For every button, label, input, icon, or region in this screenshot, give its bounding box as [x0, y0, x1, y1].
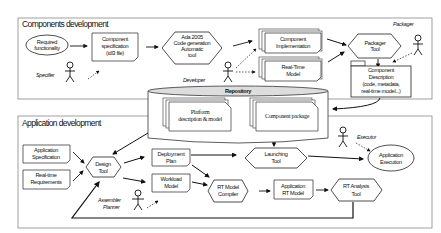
svg-text:Real-Time: Real-Time: [282, 64, 305, 70]
svg-text:Launching: Launching: [264, 151, 287, 157]
svg-text:tool: tool: [188, 52, 196, 58]
executor-label: Executor: [357, 134, 376, 140]
svg-text:(code, metadata,: (code, metadata,: [362, 81, 400, 87]
svg-text:Component: Component: [368, 67, 395, 73]
svg-text:Compiler: Compiler: [218, 191, 238, 197]
deployment-plan: Deployment Plan: [152, 149, 190, 166]
svg-text:Platform: Platform: [191, 109, 210, 115]
svg-text:Execution: Execution: [380, 159, 402, 165]
svg-text:Component package: Component package: [265, 113, 310, 119]
specifier-label: Specifier: [36, 72, 55, 78]
real-time-model: Real-Time Model: [259, 57, 322, 81]
svg-text:functionality: functionality: [34, 45, 60, 51]
svg-text:Application: Application: [379, 152, 403, 158]
workload-model: Workload Model: [152, 174, 190, 192]
assembler-label: Assembler: [97, 197, 121, 203]
application-title: Application development: [22, 118, 102, 128]
svg-text:Real-time: Real-time: [35, 172, 56, 178]
repository: Repository Platform description & model …: [148, 86, 328, 143]
svg-text:Description: Description: [369, 74, 394, 80]
component-package-doc: Component package: [250, 98, 318, 131]
svg-text:(idl3 file): (idl3 file): [106, 50, 124, 56]
svg-text:Workload: Workload: [160, 176, 181, 182]
svg-text:Application: Application: [281, 183, 305, 189]
application-rt-model: Application RT Model: [274, 180, 313, 199]
development-process-diagram: Components development Application devel…: [0, 0, 441, 233]
application-execution: Application Execution: [368, 145, 414, 171]
svg-text:Specification: Specification: [32, 154, 60, 160]
ada-code-generation-tool: Ada 2005 Code generation Automatic tool: [162, 32, 222, 64]
svg-text:Tool: Tool: [370, 46, 379, 52]
svg-text:specification: specification: [102, 43, 129, 49]
rt-analysis-tool: RT Analysis Tool: [331, 179, 382, 201]
svg-text:Deployment: Deployment: [158, 151, 186, 157]
rt-model-compiler: RT Model Compiler: [208, 180, 248, 202]
real-time-requirements: Real-time Requirements: [23, 170, 70, 189]
packager-tool: Packager Tool: [348, 34, 401, 58]
svg-text:Component: Component: [280, 36, 307, 42]
launching-tool: Launching Tool: [245, 148, 307, 168]
svg-text:Plan: Plan: [166, 158, 176, 164]
svg-text:RT Model: RT Model: [282, 190, 304, 196]
required-functionality: Required functionality: [26, 35, 68, 55]
svg-text:Tool: Tool: [271, 158, 280, 164]
planner-label: Planner: [103, 204, 120, 210]
design-tool: Design Tool: [86, 157, 121, 177]
component-implementation: Component Implementation: [259, 29, 322, 53]
svg-text:Tool: Tool: [98, 168, 107, 174]
svg-text:description & model: description & model: [178, 116, 222, 122]
svg-text:Model: Model: [164, 183, 178, 189]
component-specification: Component specification (idl3 file): [92, 33, 138, 61]
svg-text:RT Analysis: RT Analysis: [343, 183, 370, 189]
svg-text:Tool: Tool: [351, 191, 360, 197]
svg-text:Implementation: Implementation: [276, 43, 310, 49]
repository-label: Repository: [225, 88, 252, 94]
components-title: Components development: [22, 19, 109, 29]
svg-text:Model: Model: [286, 71, 300, 77]
component-description-package: Component Description (code, metadata, r…: [351, 61, 411, 97]
svg-text:Component: Component: [102, 36, 129, 42]
svg-text:Design: Design: [95, 161, 111, 167]
svg-text:real-time model...): real-time model...): [361, 88, 401, 94]
svg-text:Application: Application: [34, 147, 58, 153]
svg-text:RT Model: RT Model: [217, 184, 239, 190]
application-specification: Application Specification: [23, 145, 70, 163]
platform-description-doc: Platform description & model: [163, 98, 231, 131]
svg-text:Requirements: Requirements: [30, 179, 62, 185]
packager-label: Packager: [393, 21, 414, 27]
developer-label: Developer: [183, 77, 205, 83]
